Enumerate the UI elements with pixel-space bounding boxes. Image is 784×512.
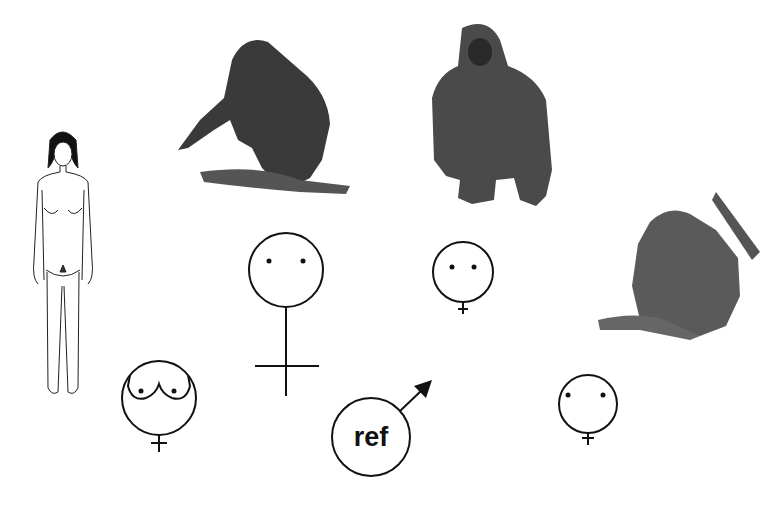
orangutan-figure — [598, 192, 760, 340]
human-female-figure — [34, 132, 93, 393]
gorilla-female-symbol — [433, 242, 493, 314]
reference-male-symbol: ref — [332, 380, 432, 476]
human-female-symbol — [122, 361, 196, 452]
reference-label: ref — [354, 422, 390, 452]
orangutan-female-symbol — [559, 375, 617, 445]
chimpanzee-figure — [178, 40, 350, 194]
chimpanzee-female-symbol — [249, 233, 323, 396]
diagram-canvas: ref — [0, 0, 784, 512]
gorilla-figure — [432, 24, 552, 206]
